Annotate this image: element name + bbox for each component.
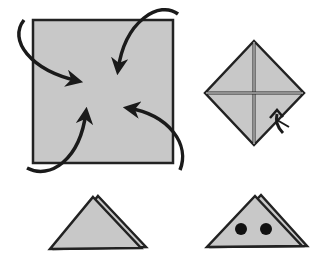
origami-diagram [0,0,328,270]
step-2-diamond [205,41,304,145]
step-3-triangle [50,196,146,249]
step-4-triangle-with-eyes [207,195,307,247]
left-eye [235,223,247,235]
right-eye [260,223,272,235]
step-1-square [19,10,183,172]
